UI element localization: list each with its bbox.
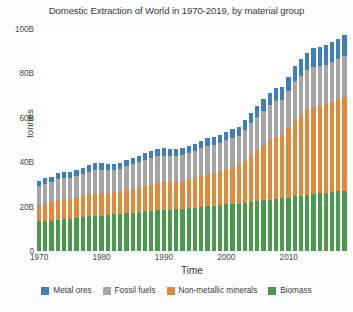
y-tick-0: 0	[0, 247, 34, 256]
bar-segment-biomass	[131, 213, 135, 251]
bar-segment-metal-ores	[205, 138, 209, 146]
bar-segment-fossil-fuels	[268, 105, 272, 140]
bar-segment-fossil-fuels	[162, 156, 166, 183]
bar-segment-biomass	[280, 198, 284, 251]
bar-segment-fossil-fuels	[205, 146, 209, 174]
bar-segment-biomass	[62, 219, 66, 251]
bar-segment-biomass	[106, 215, 110, 251]
bar-segment-fossil-fuels	[237, 136, 241, 166]
legend-label: Metal ores	[53, 286, 91, 295]
legend-item-fossil-fuels[interactable]: Fossil fuels	[103, 286, 156, 295]
bar-segment-biomass	[212, 206, 216, 251]
bar-segment-biomass	[149, 211, 153, 251]
bar-segment-fossil-fuels	[93, 170, 97, 194]
bar-segment-fossil-fuels	[324, 65, 328, 105]
bar-segment-biomass	[342, 191, 346, 251]
bar-segment-biomass	[187, 208, 191, 251]
legend-label: Non-metallic minerals	[179, 286, 258, 295]
bar-segment-non-metallic-minerals	[218, 171, 222, 205]
bar-segment-metal-ores	[342, 35, 346, 55]
bar-segment-metal-ores	[212, 137, 216, 145]
legend-item-biomass[interactable]: Biomass	[268, 286, 311, 295]
bar-segment-non-metallic-minerals	[243, 161, 247, 203]
y-tick-20B: 20B	[0, 202, 34, 211]
bar-segment-non-metallic-minerals	[255, 150, 259, 201]
bar-segment-non-metallic-minerals	[261, 145, 265, 200]
bar-segment-metal-ores	[230, 129, 234, 138]
bar-segment-fossil-fuels	[330, 62, 334, 102]
bar-segment-fossil-fuels	[311, 67, 315, 107]
bar-segment-metal-ores	[305, 53, 309, 71]
bar-segment-metal-ores	[324, 45, 328, 64]
bar-segment-non-metallic-minerals	[299, 115, 303, 196]
bar-segment-metal-ores	[143, 153, 147, 160]
bar-segment-non-metallic-minerals	[212, 173, 216, 206]
bar-segment-non-metallic-minerals	[118, 192, 122, 214]
x-tick-1990: 1990	[155, 253, 173, 262]
bar-segment-fossil-fuels	[224, 140, 228, 169]
bar-segment-biomass	[162, 210, 166, 251]
bar-segment-metal-ores	[224, 132, 228, 141]
bar-segment-non-metallic-minerals	[324, 104, 328, 192]
bar-segment-fossil-fuels	[255, 117, 259, 150]
bar-segment-fossil-fuels	[249, 123, 253, 155]
bar-segment-biomass	[124, 213, 128, 251]
bar-segment-biomass	[336, 191, 340, 251]
bar-segment-fossil-fuels	[37, 186, 41, 204]
bar-segment-non-metallic-minerals	[93, 193, 97, 216]
bar-segment-fossil-fuels	[199, 148, 203, 176]
bar-segment-non-metallic-minerals	[87, 194, 91, 216]
bar-segment-biomass	[218, 205, 222, 251]
bar-segment-metal-ores	[261, 99, 265, 111]
bar-segment-fossil-fuels	[74, 176, 78, 198]
legend-item-metal-ores[interactable]: Metal ores	[41, 286, 91, 295]
bar-segment-fossil-fuels	[143, 160, 147, 186]
bar-segment-biomass	[237, 204, 241, 252]
bar-segment-fossil-fuels	[155, 156, 159, 183]
x-tick-2000: 2000	[217, 253, 235, 262]
bar-segment-fossil-fuels	[43, 184, 47, 203]
bar-segment-fossil-fuels	[174, 156, 178, 182]
bar-segment-metal-ores	[187, 146, 191, 153]
x-tick-2010: 2010	[280, 253, 298, 262]
bar-segment-non-metallic-minerals	[268, 140, 272, 199]
bar-segment-metal-ores	[255, 106, 259, 117]
bar-segment-biomass	[155, 210, 159, 251]
page-title: Domestic Extraction of World in 1970-201…	[0, 5, 353, 16]
legend-swatch-icon	[268, 287, 276, 295]
bar-segment-metal-ores	[155, 149, 159, 156]
bar-2019[interactable]	[341, 29, 347, 251]
bar-segment-biomass	[305, 195, 309, 251]
bar-segment-fossil-fuels	[187, 153, 191, 179]
legend-swatch-icon	[167, 287, 175, 295]
bar-segment-fossil-fuels	[286, 91, 290, 128]
bar-segment-fossil-fuels	[62, 178, 66, 199]
bar-segment-biomass	[49, 221, 53, 251]
bar-segment-non-metallic-minerals	[106, 193, 110, 215]
bar-segment-biomass	[199, 207, 203, 251]
bar-segment-metal-ores	[137, 156, 141, 163]
bar-segment-metal-ores	[199, 141, 203, 149]
bar-segment-metal-ores	[249, 113, 253, 123]
bar-segment-metal-ores	[299, 59, 303, 75]
y-tick-100B: 100B	[0, 25, 34, 34]
plot-area	[36, 29, 348, 251]
bar-segment-metal-ores	[318, 47, 322, 66]
bar-segment-fossil-fuels	[243, 130, 247, 161]
bar-segment-non-metallic-minerals	[174, 182, 178, 209]
bar-segment-fossil-fuels	[212, 145, 216, 173]
bar-segment-non-metallic-minerals	[149, 184, 153, 210]
bar-segment-metal-ores	[218, 135, 222, 143]
bar-segment-fossil-fuels	[87, 172, 91, 195]
bar-segment-fossil-fuels	[124, 166, 128, 190]
bar-segment-fossil-fuels	[99, 170, 103, 193]
bar-segment-fossil-fuels	[318, 66, 322, 106]
bar-segment-non-metallic-minerals	[280, 135, 284, 198]
y-tick-80B: 80B	[0, 69, 34, 78]
chart-page: Domestic Extraction of World in 1970-201…	[0, 0, 353, 312]
bar-segment-non-metallic-minerals	[237, 165, 241, 203]
bar-segment-non-metallic-minerals	[37, 205, 41, 222]
bar-segment-biomass	[205, 206, 209, 251]
bar-segment-biomass	[274, 199, 278, 251]
legend-item-non-metallic-minerals[interactable]: Non-metallic minerals	[167, 286, 258, 295]
